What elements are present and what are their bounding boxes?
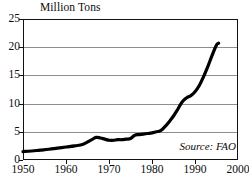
data-series-layer — [0, 0, 249, 187]
source-annotation: Source: FAO — [179, 140, 236, 152]
chart-figure: Million Tons 0510152025 1950196019701980… — [0, 0, 249, 187]
line-series-aquaculture-production — [23, 43, 219, 151]
